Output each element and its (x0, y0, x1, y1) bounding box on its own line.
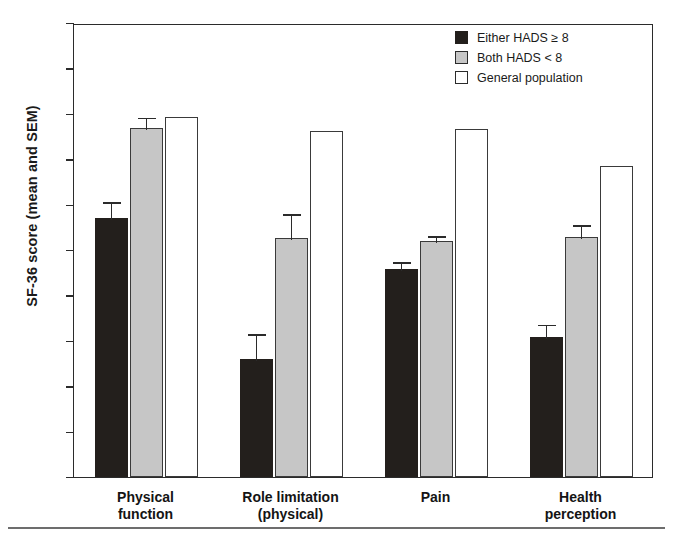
error-bar-stem (291, 214, 293, 240)
bar (95, 218, 128, 477)
legend-item-label: Both HADS < 8 (477, 51, 562, 65)
plot-area (73, 24, 653, 478)
x-axis-group-label: Physicalfunction (73, 489, 218, 523)
x-axis-group-label-line: perception (508, 506, 653, 523)
x-axis-group-label: Pain (363, 489, 508, 506)
x-axis-group-label-line: Pain (363, 489, 508, 506)
y-axis-title: SF-36 score (mean and SEM) (24, 6, 40, 406)
error-bar-stem (256, 334, 258, 361)
error-bar-stem (111, 202, 113, 220)
legend-item-label: Either HADS ≥ 8 (477, 31, 569, 45)
error-bar-cap (393, 262, 411, 264)
x-axis-group-label-line: Health (508, 489, 653, 506)
figure-container: SF-36 score (mean and SEM) 0102030405060… (0, 0, 673, 538)
x-axis-group-label: Healthperception (508, 489, 653, 523)
bar (165, 117, 198, 477)
legend-item[interactable]: Both HADS < 8 (455, 48, 583, 67)
x-axis-group-label-line: (physical) (218, 506, 363, 523)
bar (310, 131, 343, 477)
bar (385, 269, 418, 477)
legend-swatch-icon (455, 31, 468, 44)
bar (455, 129, 488, 477)
x-axis-group-label-line: function (73, 506, 218, 523)
legend-item-label: General population (477, 71, 583, 85)
x-axis-group-label-line: Role limitation (218, 489, 363, 506)
bar (130, 128, 163, 477)
chart-legend: Either HADS ≥ 8Both HADS < 8General popu… (455, 28, 583, 88)
bar (530, 337, 563, 477)
legend-swatch-icon (455, 71, 468, 84)
error-bar-cap (248, 334, 266, 336)
bar (565, 237, 598, 477)
bar (240, 359, 273, 477)
x-axis-group-label: Role limitation(physical) (218, 489, 363, 523)
legend-swatch-icon (455, 51, 468, 64)
error-bar-cap (103, 202, 121, 204)
error-bar-cap (283, 214, 301, 216)
bar (275, 238, 308, 477)
error-bar-stem (581, 225, 583, 240)
bottom-rule (8, 527, 665, 529)
legend-item[interactable]: Either HADS ≥ 8 (455, 28, 583, 47)
error-bar-cap (138, 118, 156, 120)
error-bar-cap (538, 325, 556, 327)
error-bar-stem (546, 325, 548, 340)
legend-item[interactable]: General population (455, 68, 583, 87)
error-bar-cap (428, 236, 446, 238)
bar (420, 241, 453, 477)
error-bar-cap (573, 225, 591, 227)
x-axis-group-label-line: Physical (73, 489, 218, 506)
bar (600, 166, 633, 477)
error-bar-stem (146, 118, 148, 131)
